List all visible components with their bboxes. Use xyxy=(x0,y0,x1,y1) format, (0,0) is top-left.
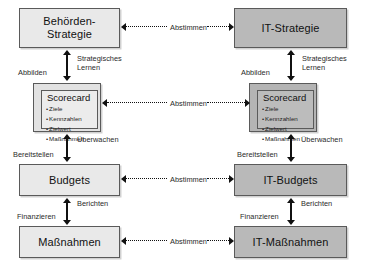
arrowhead-down-icon xyxy=(63,220,71,225)
node-it-massnahmen[interactable]: IT-Maßnahmen xyxy=(234,226,347,258)
connector-abstimmen-scorecard-left xyxy=(102,99,167,108)
scorecard-title-right: Scorecard xyxy=(263,93,313,103)
label-finanzieren-right: Finanzieren xyxy=(240,212,279,221)
label-bereitstellen-left: Bereitstellen xyxy=(13,150,54,159)
node-budgets[interactable]: Budgets xyxy=(19,164,120,196)
node-scorecard-right[interactable]: Scorecard Ziele Kennzahlen Zielwert Maßn… xyxy=(249,83,317,132)
list-item: Zielwert xyxy=(46,124,97,134)
arrow-shaft xyxy=(290,138,292,158)
node-it-strategie-label: IT-Strategie xyxy=(261,22,319,35)
connector-abstimmen-massnahmen-left xyxy=(121,237,167,246)
dotted-line xyxy=(126,26,167,27)
node-massnahmen-label: Maßnahmen xyxy=(38,236,101,249)
label-berichten-right: Berichten xyxy=(301,199,332,208)
node-it-massnahmen-label: IT-Maßnahmen xyxy=(253,236,329,249)
label-line-1: Budgets xyxy=(49,174,90,186)
label-ueberwachen-left: Überwachen xyxy=(77,135,119,144)
connector-budgets-massnahmen-right xyxy=(286,198,295,225)
label-bereitstellen-right: Bereitstellen xyxy=(237,150,278,159)
scorecard-title-left: Scorecard xyxy=(47,93,97,103)
dotted-line xyxy=(207,240,229,241)
list-item: Zielwert xyxy=(262,124,313,134)
connector-label-abstimmen-scorecard: Abstimmen xyxy=(170,99,207,108)
label-line-1: Maßnahmen xyxy=(38,236,101,248)
list-item: Ziele xyxy=(46,104,97,114)
arrowhead-right-icon xyxy=(245,99,250,107)
scorecard-inner-panel: Scorecard Ziele Kennzahlen Zielwert Maßn… xyxy=(41,90,98,129)
dotted-line xyxy=(207,178,229,179)
label-line-1: Behörden- xyxy=(43,15,95,27)
label-line-1: IT-Strategie xyxy=(261,22,319,34)
arrowhead-right-icon xyxy=(229,23,234,31)
node-it-budgets[interactable]: IT-Budgets xyxy=(234,164,347,196)
node-it-budgets-label: IT-Budgets xyxy=(263,174,317,187)
arrowhead-down-icon xyxy=(287,157,295,162)
diagram-canvas: Behörden- Strategie IT-Strategie Abstimm… xyxy=(0,0,369,268)
arrowhead-down-icon xyxy=(287,76,295,81)
scorecard-inner-panel: Scorecard Ziele Kennzahlen Zielwert Maßn… xyxy=(257,90,314,129)
label-line-1: IT-Maßnahmen xyxy=(253,236,329,248)
connector-strategie-scorecard-left xyxy=(62,50,71,81)
label-abbilden-left: Abbilden xyxy=(18,68,47,77)
label-berichten-left: Berichten xyxy=(77,199,108,208)
list-item: Ziele xyxy=(262,104,313,114)
dotted-line xyxy=(107,102,167,103)
arrowhead-down-icon xyxy=(287,220,295,225)
connector-abstimmen-budgets-right xyxy=(207,175,234,184)
connector-abstimmen-strategie-left xyxy=(121,23,167,32)
dotted-line xyxy=(126,240,167,241)
node-massnahmen[interactable]: Maßnahmen xyxy=(19,226,120,258)
dotted-line xyxy=(126,178,167,179)
dotted-line xyxy=(207,26,229,27)
arrow-shaft xyxy=(66,202,68,221)
node-behoerden-strategie[interactable]: Behörden- Strategie xyxy=(19,8,120,48)
node-it-strategie[interactable]: IT-Strategie xyxy=(234,8,347,48)
label-abbilden-right: Abbilden xyxy=(241,68,270,77)
arrow-shaft xyxy=(290,202,292,221)
label-line-2: Strategie xyxy=(43,28,95,41)
arrow-shaft xyxy=(66,138,68,158)
arrowhead-down-icon xyxy=(63,76,71,81)
arrowhead-down-icon xyxy=(63,157,71,162)
arrowhead-right-icon xyxy=(229,175,234,183)
label-finanzieren-left: Finanzieren xyxy=(17,212,56,221)
connector-scorecard-budgets-right xyxy=(286,134,295,162)
label-strategisches-lernen-right: Strategisches Lernen xyxy=(302,54,356,73)
arrow-shaft xyxy=(66,54,68,77)
list-item: Kennzahlen xyxy=(262,114,313,124)
connector-abstimmen-budgets-left xyxy=(121,175,167,184)
connector-abstimmen-massnahmen-right xyxy=(207,237,234,246)
list-item: Kennzahlen xyxy=(46,114,97,124)
label-line-1: IT-Budgets xyxy=(263,174,317,186)
connector-budgets-massnahmen-left xyxy=(62,198,71,225)
node-scorecard-left[interactable]: Scorecard Ziele Kennzahlen Zielwert Maßn… xyxy=(33,83,101,132)
label-ueberwachen-right: Überwachen xyxy=(301,135,343,144)
connector-scorecard-budgets-left xyxy=(62,134,71,162)
connector-label-abstimmen-massnahmen: Abstimmen xyxy=(170,237,207,246)
connector-abstimmen-scorecard-right xyxy=(207,99,250,108)
connector-strategie-scorecard-right xyxy=(286,50,295,81)
dotted-line xyxy=(207,102,245,103)
arrowhead-right-icon xyxy=(229,237,234,245)
connector-label-abstimmen-strategie: Abstimmen xyxy=(170,23,207,32)
node-behoerden-strategie-label: Behörden- Strategie xyxy=(43,15,95,40)
label-strategisches-lernen-left: Strategisches Lernen xyxy=(77,54,131,73)
arrow-shaft xyxy=(290,54,292,77)
connector-label-abstimmen-budgets: Abstimmen xyxy=(170,175,207,184)
connector-abstimmen-strategie-right xyxy=(207,23,234,32)
node-budgets-label: Budgets xyxy=(49,174,90,187)
